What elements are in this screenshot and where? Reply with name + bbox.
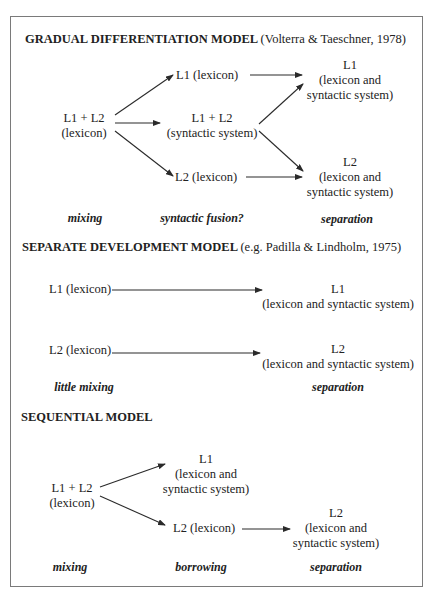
sequential-model-heading: SEQUENTIAL MODEL	[21, 410, 153, 425]
node-sublabel: (lexicon)	[49, 496, 94, 511]
gd-l1-final-node: L1 (lexicon and syntactic system)	[307, 58, 393, 103]
gd-stage-syntactic-fusion: syntactic fusion?	[160, 211, 244, 226]
node-label: L1 + L2	[61, 111, 106, 126]
sd-l2-lexicon-node: L2 (lexicon)	[49, 343, 111, 358]
node-sublabel: (lexicon and syntactic system)	[262, 297, 414, 312]
sd-stage-little-mixing: little mixing	[54, 380, 114, 395]
sd-stage-separation: separation	[312, 380, 364, 395]
node-sublabel: syntactic system)	[163, 482, 249, 497]
node-label: L1 + L2	[167, 111, 258, 126]
node-label: L2	[293, 506, 379, 521]
gd-fusion-node: L1 + L2 (syntactic system)	[167, 111, 258, 141]
sd-l1-lexicon-node: L1 (lexicon)	[49, 282, 111, 297]
node-sublabel: (lexicon and	[293, 521, 379, 536]
section-citation: (Volterra & Taeschner, 1978)	[261, 32, 406, 46]
seq-stage-borrowing: borrowing	[175, 560, 226, 575]
gd-stage-mixing: mixing	[68, 211, 103, 226]
gd-l2-lexicon-node: L2 (lexicon)	[175, 170, 237, 185]
node-sublabel: (lexicon)	[61, 126, 106, 141]
node-sublabel: (lexicon and syntactic system)	[262, 357, 414, 372]
sd-l1-final-node: L1 (lexicon and syntactic system)	[262, 282, 414, 312]
gd-l1-lexicon-node: L1 (lexicon)	[176, 68, 238, 83]
seq-start-node: L1 + L2 (lexicon)	[49, 481, 94, 511]
node-sublabel: (lexicon and	[307, 170, 393, 185]
separate-development-heading: SEPARATE DEVELOPMENT MODEL (e.g. Padilla…	[22, 240, 401, 255]
node-sublabel: syntactic system)	[293, 536, 379, 551]
section-title: GRADUAL DIFFERENTIATION MODEL	[25, 32, 257, 46]
node-label: L2	[307, 155, 393, 170]
seq-l2-final-node: L2 (lexicon and syntactic system)	[293, 506, 379, 551]
node-sublabel: (lexicon and	[163, 467, 249, 482]
node-label: L1 + L2	[49, 481, 94, 496]
node-label: L1	[262, 282, 414, 297]
seq-l2-lexicon-node: L2 (lexicon)	[173, 521, 235, 536]
node-sublabel: syntactic system)	[307, 185, 393, 200]
section-title: SEPARATE DEVELOPMENT MODEL	[22, 240, 237, 254]
section-title: SEQUENTIAL MODEL	[21, 410, 153, 424]
gd-start-node: L1 + L2 (lexicon)	[61, 111, 106, 141]
seq-stage-mixing: mixing	[53, 560, 88, 575]
seq-l1-node: L1 (lexicon and syntactic system)	[163, 452, 249, 497]
node-sublabel: (syntactic system)	[167, 126, 258, 141]
sd-l2-final-node: L2 (lexicon and syntactic system)	[262, 342, 414, 372]
gradual-differentiation-heading: GRADUAL DIFFERENTIATION MODEL (Volterra …	[25, 32, 406, 47]
node-sublabel: syntactic system)	[307, 88, 393, 103]
section-citation: (e.g. Padilla & Lindholm, 1975)	[240, 240, 401, 254]
node-sublabel: (lexicon and	[307, 73, 393, 88]
node-label: L1	[163, 452, 249, 467]
seq-stage-separation: separation	[310, 560, 362, 575]
node-label: L2	[262, 342, 414, 357]
gd-stage-separation: separation	[321, 212, 373, 227]
gd-l2-final-node: L2 (lexicon and syntactic system)	[307, 155, 393, 200]
node-label: L1	[307, 58, 393, 73]
